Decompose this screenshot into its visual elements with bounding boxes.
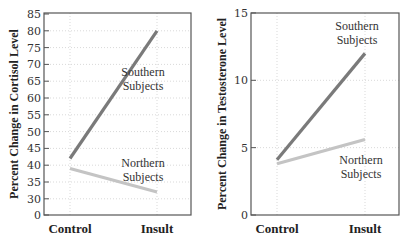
series-annotation: NorthernSubjects bbox=[339, 153, 382, 181]
y-tick-label: 60 bbox=[27, 92, 41, 105]
series-annotation: NorthernSubjects bbox=[121, 156, 164, 184]
y-axis-label: Percent Change in Cortisol Level bbox=[7, 28, 21, 198]
annotation-line: Southern bbox=[121, 65, 164, 79]
y-tick-label: 45 bbox=[27, 142, 41, 155]
annotation-line: Southern bbox=[335, 19, 378, 33]
y-tick-label: 50 bbox=[27, 126, 41, 139]
series-annotation: SouthernSubjects bbox=[121, 65, 164, 93]
y-tick-label: 65 bbox=[27, 75, 41, 88]
y-tick-label: 55 bbox=[27, 109, 41, 122]
annotation-line: Northern bbox=[121, 156, 164, 170]
x-category-label: Control bbox=[255, 221, 298, 236]
y-axis-label: Percent Change in Testosterone Level bbox=[215, 17, 229, 210]
annotation-line: Subjects bbox=[337, 33, 378, 47]
series-annotation: SouthernSubjects bbox=[335, 19, 378, 47]
y-tick-label: 0 bbox=[241, 209, 248, 222]
chart-figure: 0303540455055606570758085ControlInsultPe… bbox=[0, 0, 415, 246]
y-tick-label: 70 bbox=[27, 58, 41, 71]
x-category-label: Control bbox=[48, 221, 91, 236]
y-tick-label: 15 bbox=[234, 7, 248, 20]
annotation-line: Subjects bbox=[123, 170, 164, 184]
y-tick-label: 30 bbox=[27, 193, 41, 206]
x-category-label: Insult bbox=[349, 221, 382, 236]
y-tick-label: 80 bbox=[27, 25, 41, 38]
y-tick-label: 75 bbox=[27, 42, 41, 55]
y-tick-label: 0 bbox=[34, 209, 41, 222]
y-tick-label: 35 bbox=[27, 176, 41, 189]
testosterone-chart: 051015ControlInsultPercent Change in Tes… bbox=[215, 7, 399, 236]
y-tick-label: 10 bbox=[234, 74, 248, 87]
y-tick-label: 5 bbox=[241, 142, 248, 155]
annotation-line: Subjects bbox=[123, 79, 164, 93]
y-tick-label: 40 bbox=[27, 159, 41, 172]
annotation-line: Subjects bbox=[341, 167, 382, 181]
y-tick-label: 85 bbox=[27, 8, 41, 21]
plot-frame bbox=[44, 13, 191, 215]
cortisol-chart: 0303540455055606570758085ControlInsultPe… bbox=[7, 8, 191, 236]
annotation-line: Northern bbox=[339, 153, 382, 167]
series-line-southern bbox=[70, 31, 157, 159]
x-category-label: Insult bbox=[141, 221, 174, 236]
